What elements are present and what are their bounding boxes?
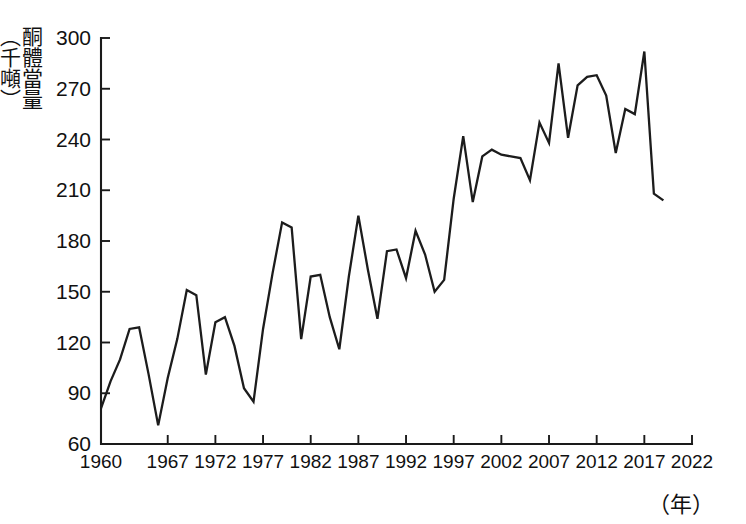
x-tick-label: 2002 [480, 451, 522, 472]
y-axis-tick-marks [101, 38, 110, 393]
x-tick-label: 1977 [242, 451, 284, 472]
x-tick-label: 2007 [528, 451, 570, 472]
ketone-equivalent-line-chart: 酮體當量 （千噸） 6090120150180210240270300 1960… [0, 0, 746, 524]
y-tick-label: 300 [56, 26, 91, 49]
x-axis-tick-labels: 1960196719721977198219871992199720022007… [80, 451, 713, 472]
axis-frame [101, 38, 692, 444]
x-tick-label: 1987 [337, 451, 379, 472]
x-tick-label: 1992 [385, 451, 427, 472]
chart-plot-area: 6090120150180210240270300 19601967197219… [0, 0, 746, 524]
x-axis-tick-marks [168, 435, 692, 444]
y-tick-label: 240 [56, 128, 91, 151]
x-tick-label: 1960 [80, 451, 122, 472]
x-axis-unit-label: （年） [648, 486, 714, 518]
data-series-line [101, 52, 663, 426]
x-tick-label: 1982 [290, 451, 332, 472]
x-tick-label: 1972 [194, 451, 236, 472]
x-tick-label: 1967 [147, 451, 189, 472]
x-tick-label: 2012 [576, 451, 618, 472]
y-tick-label: 210 [56, 178, 91, 201]
y-tick-label: 180 [56, 229, 91, 252]
x-tick-label: 2017 [623, 451, 665, 472]
y-tick-label: 150 [56, 280, 91, 303]
x-tick-label: 1997 [433, 451, 475, 472]
y-axis-tick-labels: 6090120150180210240270300 [56, 26, 91, 455]
x-tick-label: 2022 [671, 451, 713, 472]
y-tick-label: 90 [68, 381, 91, 404]
y-tick-label: 270 [56, 77, 91, 100]
y-tick-label: 120 [56, 331, 91, 354]
